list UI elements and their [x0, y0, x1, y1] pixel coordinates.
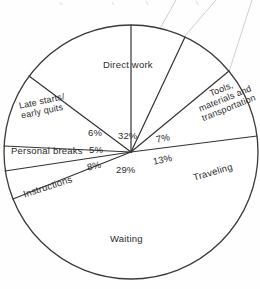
fragment-mark-4 [196, 1, 198, 5]
pie-chart-figure: Direct work Tools, materials and transpo… [0, 0, 260, 289]
fragment-mark-2 [112, 2, 114, 5]
pie-chart-canvas [0, 0, 260, 289]
caption-fragment-marks [60, 1, 198, 5]
fragment-mark-1 [60, 2, 62, 5]
fragment-mark-3 [146, 1, 148, 5]
